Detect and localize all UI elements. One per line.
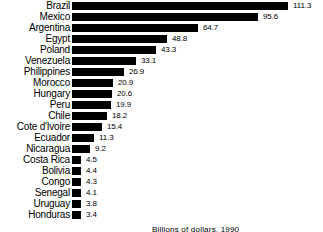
chart-row: Bolivia4.4 [0, 165, 323, 176]
category-label: Costa Rica [0, 155, 70, 165]
bar [72, 101, 111, 109]
value-label: 48.8 [172, 35, 187, 43]
chart-row: Morocco20.9 [0, 77, 323, 88]
bar-track: 9.2 [70, 143, 323, 154]
category-label: Peru [0, 100, 70, 110]
bar-track: 4.5 [70, 154, 323, 165]
bar-track: 19.9 [70, 99, 323, 110]
category-label: Philippines [0, 67, 70, 77]
value-label: 26.9 [129, 68, 144, 76]
value-label: 95.6 [263, 13, 278, 21]
bar-track: 26.9 [70, 66, 323, 77]
value-label: 3.4 [86, 211, 97, 219]
bar [72, 178, 81, 186]
chart-row: Chile18.2 [0, 110, 323, 121]
category-label: Congo [0, 177, 70, 187]
category-label: Nicaragua [0, 144, 70, 154]
category-label: Argentina [0, 23, 70, 33]
category-label: Poland [0, 45, 70, 55]
bar [72, 156, 81, 164]
value-label: 4.5 [86, 156, 97, 164]
value-label: 3.8 [86, 200, 97, 208]
bar-track: 3.8 [70, 198, 323, 209]
bar [72, 123, 102, 131]
category-label: Venezuela [0, 56, 70, 66]
value-label: 9.2 [95, 145, 106, 153]
bar-track: 4.1 [70, 187, 323, 198]
bar-chart: Brazil111.3Mexico95.6Argentina64.7Egypt4… [0, 0, 323, 232]
value-label: 4.1 [86, 189, 97, 197]
bar [72, 211, 81, 219]
chart-row: Argentina64.7 [0, 22, 323, 33]
bar [72, 13, 258, 21]
value-label: 64.7 [203, 24, 218, 32]
bar-track: 15.4 [70, 121, 323, 132]
bar-track: 95.6 [70, 11, 323, 22]
bar [72, 68, 124, 76]
bar [72, 46, 156, 54]
category-label: Mexico [0, 12, 70, 22]
axis-caption: Billions of dollars, 1990 [152, 225, 239, 232]
chart-row: Senegal4.1 [0, 187, 323, 198]
bar [72, 167, 81, 175]
value-label: 4.3 [86, 178, 97, 186]
chart-row: Ecuador11.3 [0, 132, 323, 143]
value-label: 20.6 [117, 90, 132, 98]
chart-row: Uruguay3.8 [0, 198, 323, 209]
bar-track: 33.1 [70, 55, 323, 66]
bar [72, 134, 94, 142]
value-label: 4.4 [86, 167, 97, 175]
bar [72, 57, 136, 65]
category-label: Brazil [0, 1, 70, 11]
chart-row: Cote d'Ivoire15.4 [0, 121, 323, 132]
bar-track: 18.2 [70, 110, 323, 121]
bar [72, 200, 81, 208]
bar [72, 145, 90, 153]
bar-track: 111.3 [70, 0, 323, 11]
category-label: Egypt [0, 34, 70, 44]
value-label: 43.3 [161, 46, 176, 54]
chart-row: Peru19.9 [0, 99, 323, 110]
bar [72, 2, 288, 10]
bar [72, 35, 167, 43]
chart-row: Mexico95.6 [0, 11, 323, 22]
bar [72, 79, 113, 87]
value-label: 33.1 [141, 57, 156, 65]
bar [72, 24, 198, 32]
chart-row: Philippines26.9 [0, 66, 323, 77]
bar-track: 43.3 [70, 44, 323, 55]
bar-track: 20.9 [70, 77, 323, 88]
chart-row: Nicaragua9.2 [0, 143, 323, 154]
chart-row: Egypt48.8 [0, 33, 323, 44]
chart-row: Venezuela33.1 [0, 55, 323, 66]
value-label: 18.2 [112, 112, 127, 120]
chart-row: Hungary20.6 [0, 88, 323, 99]
chart-row: Brazil111.3 [0, 0, 323, 11]
value-label: 111.3 [293, 2, 311, 10]
bar-track: 4.4 [70, 165, 323, 176]
category-label: Morocco [0, 78, 70, 88]
category-label: Honduras [0, 210, 70, 220]
value-label: 19.9 [116, 101, 131, 109]
chart-row: Honduras3.4 [0, 209, 323, 220]
category-label: Uruguay [0, 199, 70, 209]
chart-row: Poland43.3 [0, 44, 323, 55]
bar-track: 3.4 [70, 209, 323, 220]
bar-track: 64.7 [70, 22, 323, 33]
chart-row: Congo4.3 [0, 176, 323, 187]
bar-track: 4.3 [70, 176, 323, 187]
category-label: Chile [0, 111, 70, 121]
bar-track: 48.8 [70, 33, 323, 44]
chart-row: Costa Rica4.5 [0, 154, 323, 165]
category-label: Cote d'Ivoire [0, 122, 70, 132]
category-label: Bolivia [0, 166, 70, 176]
bar [72, 189, 81, 197]
category-label: Ecuador [0, 133, 70, 143]
bar-track: 20.6 [70, 88, 323, 99]
category-label: Hungary [0, 89, 70, 99]
value-label: 11.3 [99, 134, 114, 142]
category-label: Senegal [0, 188, 70, 198]
bar-track: 11.3 [70, 132, 323, 143]
value-label: 20.9 [118, 79, 133, 87]
bar [72, 112, 107, 120]
